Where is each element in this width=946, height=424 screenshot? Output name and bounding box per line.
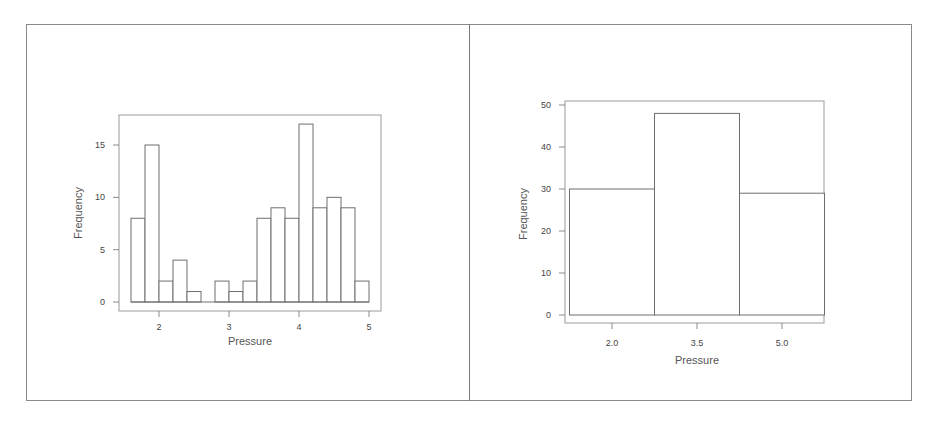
histogram-bar	[131, 218, 145, 302]
y-tick-label: 15	[95, 140, 105, 150]
y-tick-label: 30	[541, 184, 551, 194]
histogram-bar	[145, 145, 159, 302]
x-tick-label: 3	[226, 322, 231, 332]
histogram-bar	[173, 260, 187, 302]
histogram-bar	[257, 218, 271, 302]
histogram-bar	[327, 197, 341, 302]
x-tick-label: 5.0	[776, 338, 789, 348]
y-tick-label: 0	[100, 297, 105, 307]
histogram-bar	[187, 292, 201, 302]
x-axis-left: 2345	[156, 311, 371, 332]
histogram-bar	[299, 124, 313, 302]
x-axis-label-right: Pressure	[675, 354, 719, 366]
histogram-bar	[355, 281, 369, 302]
y-axis-label-right: Frequency	[517, 188, 529, 240]
y-tick-label: 50	[541, 100, 551, 110]
y-axis-right: 01020304050	[541, 100, 565, 320]
y-tick-label: 10	[95, 192, 105, 202]
y-axis-label-left: Frequency	[72, 187, 84, 239]
y-tick-label: 10	[541, 268, 551, 278]
x-tick-label: 2	[156, 322, 161, 332]
histogram-bar	[243, 281, 257, 302]
x-tick-label: 2.0	[606, 338, 619, 348]
y-axis-left: 051015	[95, 140, 119, 307]
histogram-coarse-bins: 01020304050 2.03.55.0 Pressure Frequency	[517, 100, 825, 366]
x-tick-label: 3.5	[691, 338, 704, 348]
histogram-bar	[215, 281, 229, 302]
bars-right	[570, 113, 825, 315]
y-tick-label: 20	[541, 226, 551, 236]
x-tick-label: 5	[366, 322, 371, 332]
histogram-bar	[229, 292, 243, 302]
histogram-bar	[271, 208, 285, 302]
histogram-fine-bins: 051015 2345 Pressure Frequency	[72, 115, 381, 347]
y-tick-label: 40	[541, 142, 551, 152]
x-axis-right: 2.03.55.0	[606, 323, 789, 348]
histogram-bar	[655, 113, 740, 315]
histogram-figure: 051015 2345 Pressure Frequency 010203040…	[0, 0, 946, 424]
histogram-bar	[159, 281, 173, 302]
histogram-bar	[570, 189, 655, 315]
x-axis-label-left: Pressure	[228, 335, 272, 347]
bars-left	[131, 124, 369, 302]
histogram-bar	[313, 208, 327, 302]
histogram-bar	[285, 218, 299, 302]
y-tick-label: 0	[546, 310, 551, 320]
histogram-bar	[341, 208, 355, 302]
y-tick-label: 5	[100, 245, 105, 255]
x-tick-label: 4	[296, 322, 301, 332]
histogram-bar	[740, 193, 825, 315]
